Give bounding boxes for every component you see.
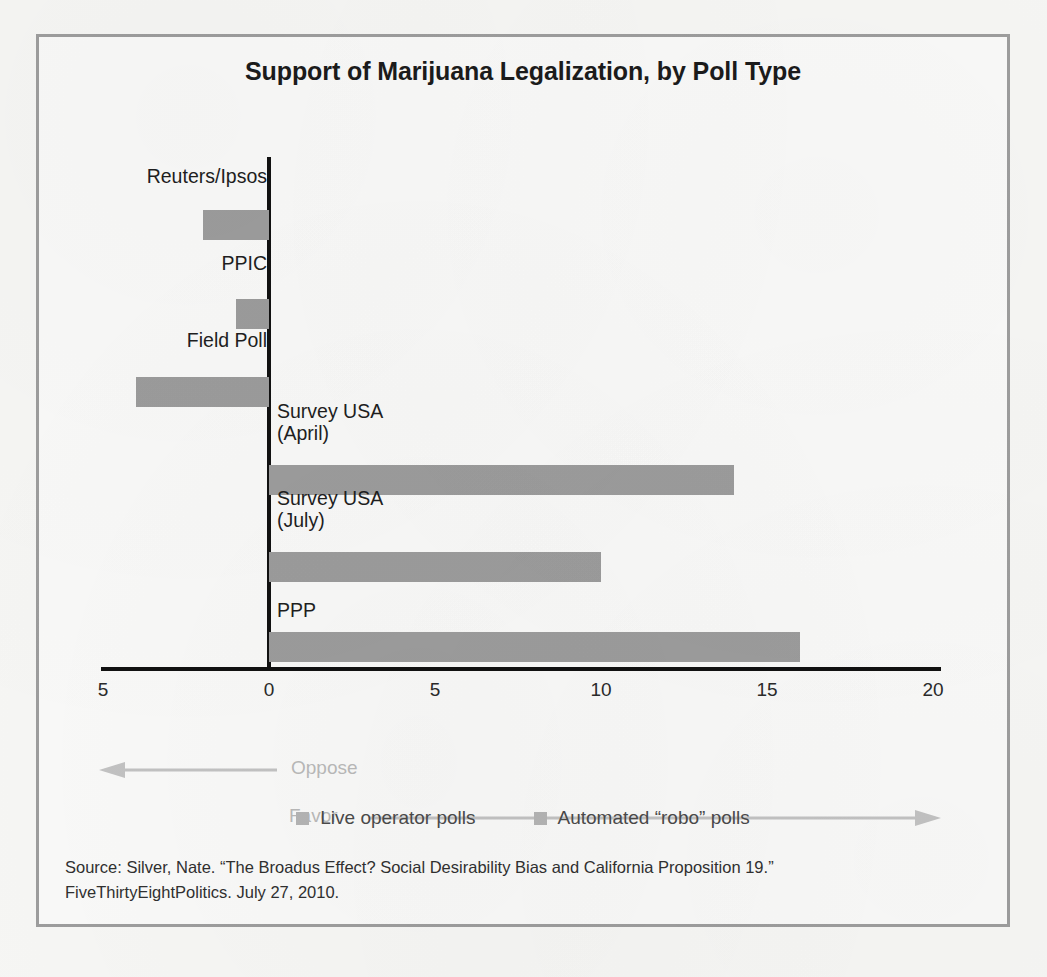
bar-category-label: Survey USA (April) [277,400,383,444]
bar-category-label: Field Poll [187,329,267,351]
arrow-left-icon [99,760,279,780]
square-swatch-icon [534,812,547,825]
bar-category-label: Survey USA (July) [277,487,383,531]
legend-item[interactable]: Automated “robo” polls [534,807,750,829]
chart-legend: Live operator pollsAutomated “robo” poll… [39,807,1007,829]
x-axis-tick-labels: 505101520 [39,679,1007,713]
bar-category-label: Reuters/Ipsos [147,165,267,187]
plot-area: Reuters/IpsosPPICField PollSurvey USA (A… [39,97,1007,682]
x-tick-label: 10 [571,679,631,701]
bar-category-label: PPIC [221,252,267,274]
source-note: Source: Silver, Nate. “The Broadus Effec… [65,855,965,905]
x-tick-label: 0 [239,679,299,701]
chart-figure-frame: Support of Marijuana Legalization, by Po… [36,34,1010,927]
chart-title: Support of Marijuana Legalization, by Po… [39,57,1007,86]
source-line-1: Source: Silver, Nate. “The Broadus Effec… [65,855,965,880]
x-axis-line [101,667,941,671]
legend-label: Automated “robo” polls [558,807,750,829]
bar[interactable] [269,552,601,582]
legend-label: Live operator polls [320,807,475,829]
oppose-label: Oppose [291,757,358,779]
bar[interactable] [236,299,269,329]
square-swatch-icon [296,812,309,825]
x-tick-label: 5 [73,679,133,701]
bar[interactable] [269,632,800,662]
x-tick-label: 20 [903,679,963,701]
x-tick-label: 15 [737,679,797,701]
screenshot-page: Support of Marijuana Legalization, by Po… [0,0,1047,977]
x-tick-label: 5 [405,679,465,701]
legend-item[interactable]: Live operator polls [296,807,475,829]
bar[interactable] [203,210,269,240]
bar[interactable] [136,377,269,407]
bar-category-label: PPP [277,599,316,621]
source-line-2: FiveThirtyEightPolitics. July 27, 2010. [65,880,965,905]
